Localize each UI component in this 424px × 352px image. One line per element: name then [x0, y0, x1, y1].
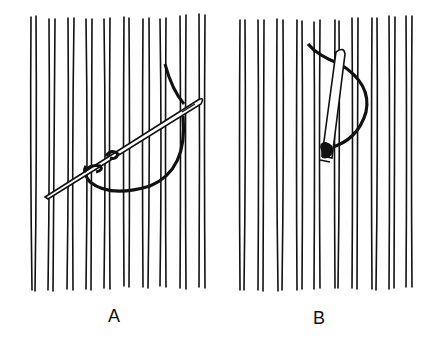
panel-label-a: A: [108, 306, 120, 327]
needlework-diagram: [0, 0, 424, 352]
panel-label-b: B: [313, 308, 325, 329]
